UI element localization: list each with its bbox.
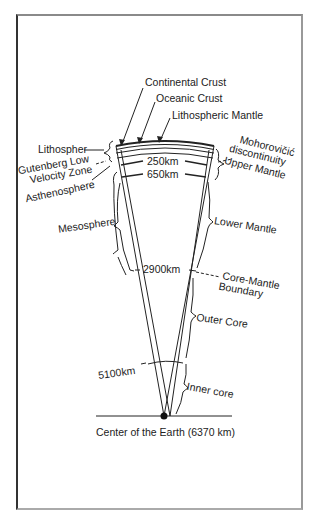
- earth-wedge-diagram: 250km 650km Continental Crust Oceanic Cr…: [0, 0, 315, 526]
- mesosphere-brace: [114, 183, 134, 271]
- asthenosphere-leader: [92, 166, 110, 180]
- right-braces: [176, 149, 224, 414]
- outer-core-label: Outer Core: [196, 311, 249, 330]
- oceanic-crust-label: Oceanic Crust: [156, 92, 223, 104]
- core-mantle-leader: [196, 272, 220, 277]
- earth-center-dot: [161, 413, 168, 420]
- depth-2900-label: 2900km: [143, 263, 181, 275]
- inner-core-label: Inner core: [186, 380, 235, 400]
- depth-5100-tick: [141, 363, 146, 364]
- continental-crust-label: Continental Crust: [145, 76, 226, 88]
- lithospheric-mantle-label: Lithospheric Mantle: [172, 109, 263, 121]
- lower-mantle-label: Lower Mantle: [214, 214, 278, 236]
- depth-250-label: 250km: [147, 155, 179, 167]
- gutenberg-leader: [96, 161, 106, 164]
- mesosphere-label: Mesosphere: [57, 215, 116, 235]
- depth-650-label: 650km: [147, 168, 179, 180]
- depth-2900-tick-right: [189, 270, 196, 271]
- depth-5100-label: 5100km: [97, 364, 136, 381]
- center-label: Center of the Earth (6370 km): [96, 426, 235, 438]
